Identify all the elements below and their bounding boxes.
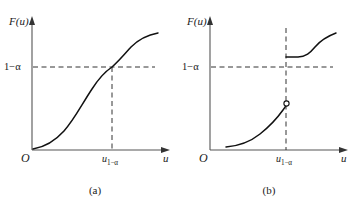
panel-a: F(u) u O 1−α u1−α (a) [0, 0, 178, 207]
quantile-tick-label-b: u1−α [276, 154, 292, 167]
cdf-upper-branch-b [286, 33, 336, 57]
origin-label-b: O [199, 152, 208, 164]
x-axis-label-a: u [163, 153, 169, 164]
cdf-lower-branch-b [226, 106, 286, 148]
origin-label-a: O [21, 152, 30, 164]
level-label-a: 1−α [4, 62, 21, 73]
caption-a: (a) [75, 184, 115, 196]
panel-b-graphic [178, 0, 356, 207]
y-axis-label-a: F(u) [9, 16, 29, 27]
figure-cdf-quantile: F(u) u O 1−α u1−α (a) F(u) u O [0, 0, 356, 207]
x-axis-label-b: u [341, 153, 347, 164]
caption-b: (b) [249, 184, 289, 196]
open-circle-marker-b [284, 101, 289, 106]
y-axis-label-b: F(u) [187, 16, 207, 27]
quantile-tick-sub-a: 1−α [107, 159, 118, 167]
quantile-tick-label-a: u1−α [102, 154, 118, 167]
y-axis-arrow-b [207, 16, 213, 25]
cdf-curve-a [33, 33, 158, 149]
panel-a-graphic [0, 0, 178, 207]
panel-b: F(u) u O 1−α u1−α (b) [178, 0, 356, 207]
level-label-b: 1−α [182, 62, 199, 73]
y-axis-arrow-a [29, 16, 35, 25]
quantile-tick-sub-b: 1−α [281, 159, 292, 167]
